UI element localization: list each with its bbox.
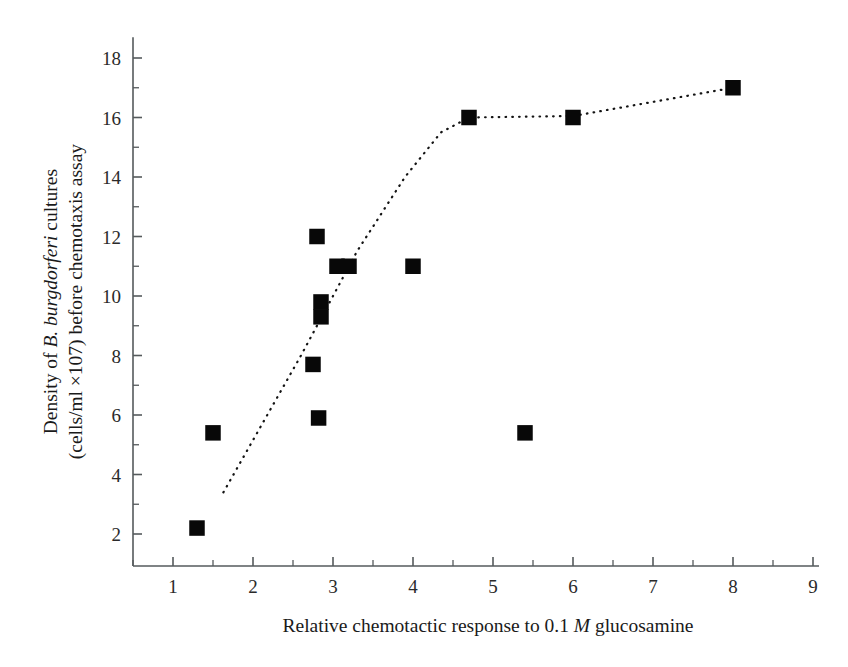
data-point-marker[interactable] (313, 309, 329, 325)
data-point-marker[interactable] (309, 229, 325, 245)
data-point-marker[interactable] (565, 110, 581, 126)
x-tick-label: 7 (648, 576, 658, 597)
data-point-marker[interactable] (461, 110, 477, 126)
y-tick-label: 14 (102, 167, 122, 188)
trendline-dotted (223, 88, 733, 493)
y-tick-label: 18 (102, 48, 121, 69)
y-tick-label: 8 (112, 346, 122, 367)
scatter-plot: 12345678924681012141618Relative chemotac… (0, 0, 848, 667)
y-tick-label: 2 (112, 524, 122, 545)
y-tick-label: 4 (112, 465, 122, 486)
data-point-marker[interactable] (341, 259, 357, 275)
x-tick-label: 4 (408, 576, 418, 597)
x-tick-label: 1 (168, 576, 178, 597)
data-point-marker[interactable] (517, 425, 533, 441)
y-tick-label: 6 (112, 405, 122, 426)
figure-container: 12345678924681012141618Relative chemotac… (0, 0, 848, 667)
data-point-marker[interactable] (205, 425, 221, 441)
y-tick-label: 12 (102, 227, 121, 248)
y-tick-label: 10 (102, 286, 121, 307)
x-tick-label: 6 (568, 576, 578, 597)
data-point-marker[interactable] (305, 357, 321, 373)
data-point-marker[interactable] (725, 80, 741, 96)
x-tick-label: 3 (328, 576, 338, 597)
data-point-marker[interactable] (405, 259, 421, 275)
y-axis-title-line1: Density of B. burgdorferi cultures (40, 169, 61, 434)
x-axis-title: Relative chemotactic response to 0.1 M g… (282, 615, 693, 636)
x-tick-label: 2 (248, 576, 258, 597)
y-tick-label: 16 (102, 108, 121, 129)
x-tick-label: 9 (808, 576, 818, 597)
y-axis-title-line2: (cells/ml ×107) before chemotaxis assay (65, 144, 87, 460)
data-point-marker[interactable] (311, 410, 327, 426)
data-point-marker[interactable] (313, 294, 329, 310)
x-tick-label: 8 (728, 576, 738, 597)
data-point-marker[interactable] (189, 520, 205, 536)
x-tick-label: 5 (488, 576, 498, 597)
